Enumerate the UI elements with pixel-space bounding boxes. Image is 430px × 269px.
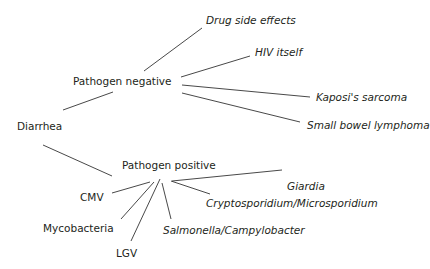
edge-positive-mycobacteria	[121, 182, 154, 219]
diagnosis-tree-diagram: Diarrhea Pathogen negative Drug side eff…	[0, 0, 430, 269]
leaf-cryptosporidium-microsporidium: Cryptosporidium/Microsporidium	[206, 198, 378, 209]
edge-negative-kaposi	[182, 85, 310, 97]
leaf-lgv: LGV	[116, 248, 137, 259]
node-pathogen-positive: Pathogen positive	[122, 160, 216, 171]
edge-positive-lgv	[131, 179, 160, 241]
edge-negative-lymphoma	[182, 93, 300, 122]
leaf-mycobacteria: Mycobacteria	[43, 223, 114, 234]
leaf-kaposis-sarcoma: Kaposi's sarcoma	[316, 92, 407, 103]
edge-negative-hiv	[181, 56, 250, 77]
leaf-small-bowel-lymphoma: Small bowel lymphoma	[307, 120, 430, 131]
edge-diarrhea-positive	[43, 145, 112, 176]
leaf-giardia: Giardia	[287, 181, 325, 192]
edge-positive-cmv	[112, 182, 150, 193]
edge-negative-drug	[144, 28, 202, 71]
edge-diarrhea-negative	[63, 92, 113, 110]
edge-positive-salmonella	[162, 183, 171, 219]
node-root: Diarrhea	[17, 121, 62, 132]
leaf-drug-side-effects: Drug side effects	[206, 15, 296, 26]
node-pathogen-negative: Pathogen negative	[73, 76, 172, 87]
edge-positive-giardia	[172, 170, 282, 181]
leaf-hiv-itself: HIV itself	[255, 47, 302, 58]
leaf-salmonella-campylobacter: Salmonella/Campylobacter	[163, 225, 305, 236]
edge-positive-crypto	[171, 181, 210, 194]
leaf-cmv: CMV	[80, 192, 104, 203]
